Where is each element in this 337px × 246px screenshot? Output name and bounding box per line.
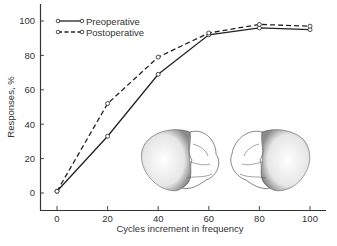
data-point-marker	[156, 55, 160, 59]
legend-label-preoperative: Preoperative	[86, 16, 140, 27]
data-point-marker	[308, 24, 312, 28]
y-tick-label: 40	[24, 119, 35, 130]
y-axis-title: Responses, %	[5, 76, 16, 138]
x-tick-label: 100	[302, 213, 318, 224]
y-tick-label: 20	[24, 153, 35, 164]
data-point-marker	[257, 22, 261, 26]
legend-marker-icon	[80, 19, 84, 23]
legend-item-preoperative: Preoperative	[56, 16, 140, 27]
legend-label-postoperative: Postoperative	[86, 27, 144, 38]
x-tick-label: 80	[254, 213, 265, 224]
data-point-marker	[106, 134, 110, 138]
y-tick-label: 80	[24, 50, 35, 61]
y-tick-label: 0	[30, 187, 35, 198]
brain-illustration-left	[141, 130, 218, 191]
line-chart: 020406080100 020406080100 Cycles increme…	[0, 0, 337, 246]
x-ticks: 020406080100	[54, 206, 318, 224]
legend-marker-icon	[56, 30, 60, 34]
y-tick-label: 100	[19, 15, 35, 26]
data-point-marker	[207, 31, 211, 35]
x-tick-label: 0	[54, 213, 59, 224]
legend: Preoperative Postoperative	[56, 16, 144, 38]
y-tick-label: 60	[24, 84, 35, 95]
data-point-marker	[156, 72, 160, 76]
data-point-marker	[106, 102, 110, 106]
legend-marker-icon	[80, 30, 84, 34]
x-tick-label: 20	[102, 213, 113, 224]
legend-item-postoperative: Postoperative	[56, 27, 144, 38]
x-axis-title: Cycles increment in frequency	[116, 223, 243, 234]
data-point-marker	[55, 189, 59, 193]
brain-illustration-right	[231, 130, 310, 191]
legend-marker-icon	[56, 19, 60, 23]
